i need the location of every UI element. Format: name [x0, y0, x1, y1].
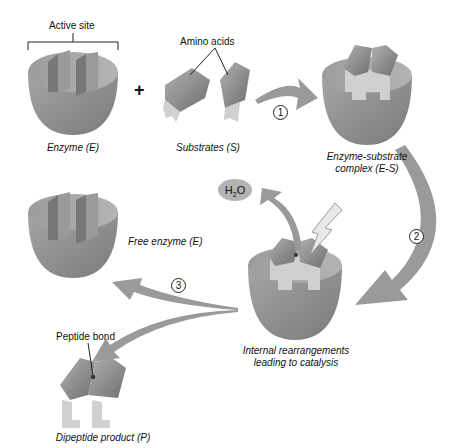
enzyme-substrate-complex-icon [322, 45, 412, 145]
free-enzyme-label: Free enzyme (E) [128, 236, 202, 248]
water-molecule: H2O [218, 179, 252, 201]
water-h: H [225, 184, 233, 196]
rearrangement-label-line2: leading to catalysis [236, 357, 356, 369]
diagram-artwork [0, 0, 468, 448]
free-enzyme-icon [28, 192, 118, 278]
step-3-badge: 3 [171, 278, 186, 293]
amino-acids-label: Amino acids [180, 36, 234, 48]
peptide-bond-label: Peptide bond [56, 331, 115, 343]
complex-label-line2: complex (E-S) [322, 163, 412, 175]
step-1-badge: 1 [273, 105, 288, 120]
step-2-badge: 2 [409, 229, 424, 244]
step-1-arrow [255, 78, 318, 110]
rearrangement-complex-icon [248, 238, 342, 340]
active-site-bracket [28, 33, 118, 50]
substrates-label: Substrates (S) [168, 142, 248, 154]
energy-bolt-icon [310, 203, 342, 255]
plus-sign: + [134, 80, 145, 101]
rearrangement-label-line1: Internal rearrangements [236, 345, 356, 357]
enzyme-label: Enzyme (E) [40, 142, 106, 154]
substrates-icon [163, 48, 250, 122]
water-o: O [237, 184, 246, 196]
complex-label-line1: Enzyme-substrate [322, 151, 412, 163]
dipeptide-product-label: Dipeptide product (P) [48, 432, 158, 444]
enzyme-icon [28, 50, 118, 135]
active-site-label: Active site [49, 20, 95, 32]
enzyme-diagram: Active site Amino acids + Enzyme (E) Sub… [0, 0, 468, 448]
